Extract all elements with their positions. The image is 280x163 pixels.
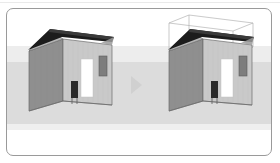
house-before-side-wall xyxy=(29,39,63,111)
house-after-scene xyxy=(143,9,263,156)
house-after-door-opening xyxy=(221,59,233,97)
illustration-card xyxy=(6,8,272,156)
house-after-window xyxy=(239,56,247,76)
house-after-lower-opening xyxy=(211,81,218,98)
triangle-right-icon xyxy=(131,76,142,94)
next-step-arrow xyxy=(129,75,143,95)
illustration-stage xyxy=(7,9,271,155)
top-edge-artifact xyxy=(0,2,280,3)
house-before-scene xyxy=(15,9,135,156)
house-before-lower-opening xyxy=(71,81,78,98)
house-after-model xyxy=(168,15,254,111)
house-after-side-wall xyxy=(169,39,203,111)
house-before-window xyxy=(99,56,107,76)
screenshot-root xyxy=(0,0,280,163)
house-before-door-opening xyxy=(81,59,93,97)
house-before-model xyxy=(28,29,114,111)
